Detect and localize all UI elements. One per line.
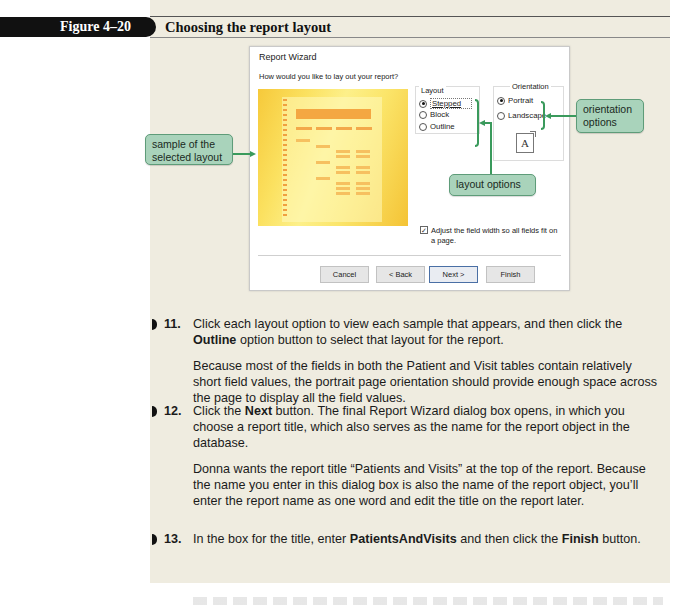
orientation-group-legend: Orientation (510, 82, 551, 91)
preview-bar (336, 155, 350, 158)
preview-bar (316, 127, 332, 130)
radio-outline[interactable]: Outline (419, 122, 455, 131)
radio-label: Portrait (508, 96, 533, 105)
step-text-bold: Next (245, 404, 272, 418)
clipped-next-paragraph (193, 597, 663, 605)
figure-label: Figure 4–20 (0, 17, 156, 37)
step-number: 11. (164, 316, 181, 332)
preview-bar (336, 127, 352, 130)
step-12: 12. Click the Next button. The final Rep… (150, 403, 670, 451)
preview-bar (336, 182, 350, 185)
step-marker-icon (152, 534, 157, 545)
step-text-part: option button to select that layout for … (236, 333, 503, 347)
preview-bar (356, 155, 370, 158)
step-text-part: button. (599, 532, 641, 546)
radio-button-selected[interactable] (497, 97, 505, 105)
next-button[interactable]: Next > (429, 266, 478, 283)
step-text-bold: PatientsAndVisits (350, 532, 457, 546)
radio-button[interactable] (497, 112, 505, 120)
radio-label: Stepped (430, 98, 472, 109)
step-marker-icon (152, 319, 157, 330)
preview-bar (336, 150, 350, 153)
callout-layout-options: layout options (449, 174, 536, 196)
finish-button[interactable]: Finish (486, 266, 535, 283)
preview-bar (296, 139, 310, 142)
callout-orientation-options: orientation options (576, 99, 644, 133)
figure-number: Figure 4–20 (60, 17, 131, 37)
dialog-separator (258, 255, 561, 256)
step-number: 12. (164, 403, 182, 419)
preview-bar (356, 182, 370, 185)
preview-bar (296, 127, 312, 130)
step-12-note: Donna wants the report title “Patients a… (193, 461, 663, 509)
cancel-button[interactable]: Cancel (320, 266, 369, 283)
orientation-brace (541, 101, 545, 130)
preview-bar (316, 145, 330, 148)
preview-bar (336, 187, 350, 190)
radio-stepped[interactable]: Stepped (419, 98, 472, 109)
preview-bar (336, 192, 350, 195)
preview-bar (356, 187, 370, 190)
step-11: 11. Click each layout option to view eac… (150, 316, 670, 348)
arrow-left-icon (545, 113, 551, 119)
preview-bar (356, 171, 370, 174)
orientation-group: Orientation Portrait Landscape A (493, 86, 564, 161)
step-text-bold: Finish (562, 532, 599, 546)
preview-bar (356, 150, 370, 153)
page-orientation-icon: A (516, 133, 534, 153)
layout-preview-image (258, 89, 408, 226)
callout-connector (550, 115, 576, 117)
preview-bar (356, 127, 372, 130)
callout-connector (490, 122, 492, 174)
dialog-title: Report Wizard (259, 52, 317, 62)
radio-label: Block (430, 110, 449, 119)
preview-bar (316, 161, 330, 164)
radio-button[interactable] (419, 123, 427, 131)
step-11-note: Because most of the fields in both the P… (193, 358, 663, 406)
preview-bar (336, 166, 350, 169)
preview-bar (316, 177, 330, 180)
preview-bar (356, 192, 370, 195)
adjust-field-width-checkbox[interactable]: ✓ Adjust the field width so all fields f… (420, 226, 560, 246)
preview-bar (336, 171, 350, 174)
radio-block[interactable]: Block (419, 110, 449, 119)
dialog-question: How would you like to lay out your repor… (259, 72, 398, 81)
radio-button-selected[interactable] (419, 100, 427, 108)
step-text: Click each layout option to view each sa… (193, 316, 663, 348)
radio-button[interactable] (419, 111, 427, 119)
step-text-part: Click the (193, 404, 245, 418)
step-marker-icon (152, 406, 157, 417)
preview-bar (356, 166, 370, 169)
figure-rule-bottom (150, 37, 670, 38)
radio-landscape[interactable]: Landscape (497, 111, 546, 120)
checkbox-label: Adjust the field width so all fields fit… (431, 226, 560, 246)
step-text-part: and then click the (457, 532, 562, 546)
radio-portrait[interactable]: Portrait (497, 96, 533, 105)
layout-brace (475, 99, 479, 147)
callout-connector (233, 153, 250, 155)
layout-group-legend: Layout (419, 86, 446, 95)
radio-label-text: Stepped (432, 99, 461, 108)
checkbox-checked[interactable]: ✓ (420, 226, 428, 234)
step-text-part: In the box for the title, enter (193, 532, 350, 546)
arrow-right-icon (250, 151, 256, 157)
back-button[interactable]: < Back (376, 266, 425, 283)
radio-label: Outline (430, 122, 455, 131)
layout-group: Layout Stepped Block Outline (415, 86, 480, 134)
step-text-part: Click each layout option to view each sa… (193, 317, 622, 331)
step-13: 13. In the box for the title, enter Pati… (150, 531, 670, 563)
step-text: In the box for the title, enter Patients… (193, 531, 663, 547)
report-wizard-dialog: Report Wizard How would you like to lay … (249, 46, 570, 291)
figure-title: Choosing the report layout (165, 17, 331, 37)
step-text: Click the Next button. The final Report … (193, 403, 663, 451)
arrow-left-icon (479, 120, 485, 126)
callout-sample-layout: sample of the selected layout (145, 134, 233, 165)
preview-title-bar (296, 109, 371, 119)
step-number: 13. (164, 531, 182, 547)
preview-spine (283, 99, 287, 219)
step-text-bold: Outline (193, 333, 236, 347)
